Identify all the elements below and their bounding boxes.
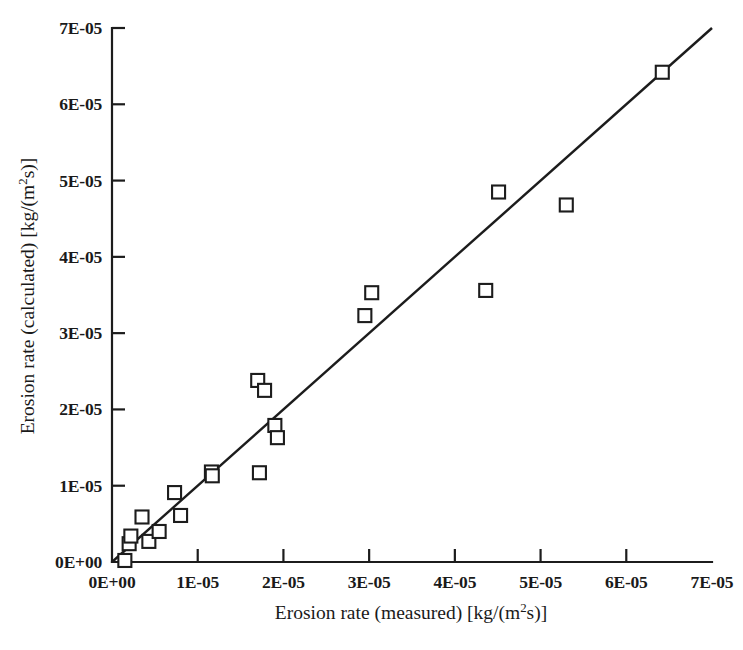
x-tick-label: 1E-05 (176, 572, 219, 593)
data-point-marker (358, 309, 371, 322)
y-tick-label: 3E-05 (30, 323, 102, 344)
data-point-marker (136, 510, 149, 523)
y-axis-ticks (112, 28, 125, 486)
x-tick-label: 2E-05 (262, 572, 305, 593)
data-point-marker (258, 384, 271, 397)
x-axis-ticks (198, 549, 627, 562)
data-point-marker (206, 469, 219, 482)
data-point-marker (268, 419, 281, 432)
data-point-marker (365, 286, 378, 299)
data-point-marker (271, 431, 284, 444)
data-point-marker (153, 525, 166, 538)
y-tick-label: 4E-05 (30, 246, 102, 267)
x-tick-label: 0E+00 (89, 572, 136, 593)
data-point-marker (124, 530, 137, 543)
scatter-plot-figure: 0E+001E-052E-053E-054E-055E-056E-057E-05… (0, 0, 743, 650)
x-tick-label: 4E-05 (433, 572, 476, 593)
y-tick-label: 0E+00 (30, 552, 102, 573)
x-axis-title: Erosion rate (measured) [kg/(m2s)] (275, 602, 547, 624)
parity-reference-line (112, 28, 712, 562)
y-tick-label: 2E-05 (30, 399, 102, 420)
y-tick-label: 5E-05 (30, 170, 102, 191)
data-point-marker (479, 284, 492, 297)
data-point-marker (656, 66, 669, 79)
parity-line (112, 28, 712, 562)
y-tick-label: 7E-05 (30, 18, 102, 39)
data-point-marker (492, 186, 505, 199)
x-tick-label: 7E-05 (691, 572, 734, 593)
data-point-marker (560, 198, 573, 211)
x-tick-label: 6E-05 (605, 572, 648, 593)
y-axis-title: Erosion rate (calculated) [kg/(m2s)] (17, 158, 39, 435)
x-tick-label: 5E-05 (519, 572, 562, 593)
data-point-marker (168, 486, 181, 499)
plot-canvas (0, 0, 743, 650)
x-tick-label: 3E-05 (348, 572, 391, 593)
data-point-marker (253, 466, 266, 479)
data-point-marker (174, 509, 187, 522)
data-point-marker (118, 554, 131, 567)
y-tick-label: 6E-05 (30, 94, 102, 115)
y-tick-label: 1E-05 (30, 475, 102, 496)
